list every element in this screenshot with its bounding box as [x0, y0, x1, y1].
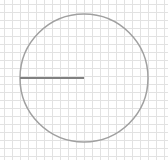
circle-diagram [0, 0, 168, 160]
grid-background [0, 0, 168, 160]
diagram-canvas [0, 0, 168, 160]
